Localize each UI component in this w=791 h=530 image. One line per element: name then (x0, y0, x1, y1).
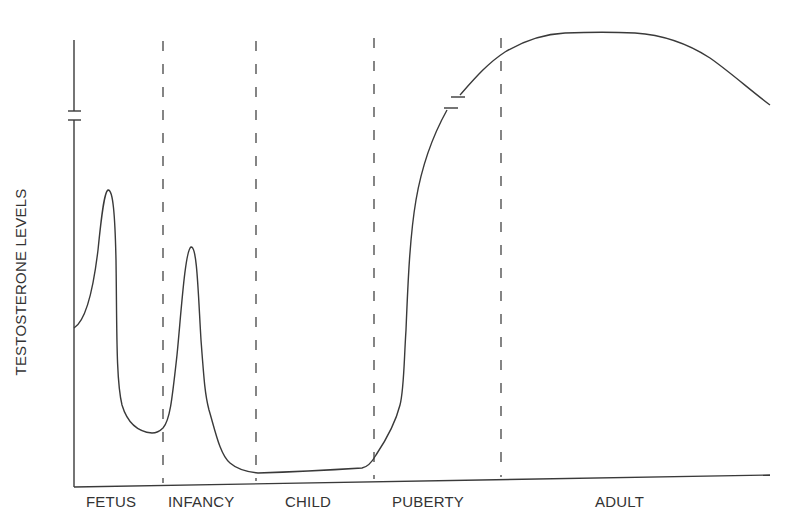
phase-label-infancy: INFANCY (168, 493, 234, 510)
y-axis (68, 40, 81, 487)
testosterone-lifespan-diagram: TESTOSTERONE LEVELS FETUS INFANCY CHILD … (0, 0, 791, 530)
testosterone-curve-upper (460, 32, 770, 105)
x-axis (74, 475, 770, 487)
phase-dividers (163, 38, 501, 483)
phase-label-fetus: FETUS (86, 493, 136, 510)
diagram-canvas (0, 0, 791, 530)
phase-label-child: CHILD (285, 493, 331, 510)
phase-label-puberty: PUBERTY (392, 493, 464, 510)
phase-label-adult: ADULT (595, 493, 644, 510)
y-axis-label: TESTOSTERONE LEVELS (12, 189, 29, 376)
testosterone-curve-lower (74, 110, 447, 473)
